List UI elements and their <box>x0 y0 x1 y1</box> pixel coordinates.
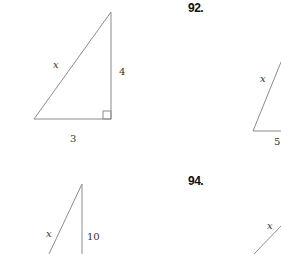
triangle-figure-2 <box>253 62 281 131</box>
vertical-leg-label: 10 <box>87 232 100 242</box>
triangle-figure-1 <box>34 12 111 119</box>
hypotenuse-label: x <box>46 229 52 239</box>
problem-number-94: 94. <box>188 175 203 187</box>
hypotenuse <box>49 184 82 254</box>
horizontal-leg-label: 5 <box>274 137 280 147</box>
vertical-leg-label: 4 <box>119 67 125 77</box>
right-angle-marker <box>103 111 111 119</box>
problem-number-92: 92. <box>188 2 203 14</box>
triangle-figure-3 <box>49 184 82 254</box>
hypotenuse-label: x <box>53 60 59 70</box>
figures-canvas <box>0 0 281 254</box>
hypotenuse-label: x <box>260 74 266 84</box>
horizontal-leg-label: 3 <box>70 134 76 144</box>
side-label: x <box>267 221 273 231</box>
hypotenuse <box>253 62 281 131</box>
hypotenuse <box>34 12 111 119</box>
